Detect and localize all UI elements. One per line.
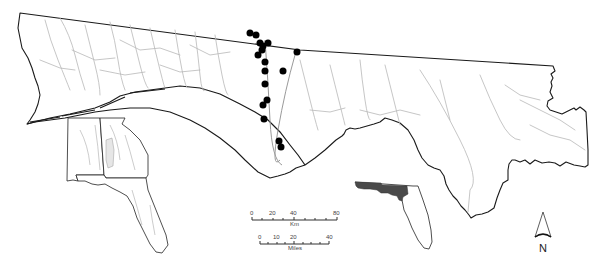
miles-tick-0: 0 — [258, 234, 262, 240]
florida-locator-inset — [355, 182, 432, 249]
main-region — [18, 13, 588, 218]
site-marker — [276, 138, 283, 145]
miles-scale-bar: 0 10 20 40 Miles — [258, 234, 333, 251]
miles-unit-label: Miles — [288, 245, 302, 251]
km-tick-0: 0 — [250, 210, 254, 216]
study-region-boundary — [18, 13, 588, 218]
site-marker — [261, 116, 268, 123]
north-label: N — [539, 242, 547, 254]
site-marker — [247, 30, 254, 37]
site-marker — [253, 32, 260, 39]
miles-tick-10: 10 — [273, 234, 280, 240]
site-marker — [294, 49, 301, 56]
north-arrow: N — [535, 212, 551, 254]
site-marker — [262, 59, 269, 66]
site-marker — [262, 68, 269, 75]
km-unit-label: Km — [290, 221, 299, 227]
site-marker — [278, 144, 285, 151]
km-scale-bar: 0 20 40 80 Km — [250, 210, 340, 227]
study-area-map: 0 20 40 80 Km 0 10 20 40 Miles N — [0, 0, 608, 267]
site-marker — [280, 68, 287, 75]
site-marker — [262, 81, 269, 88]
site-marker — [265, 40, 272, 47]
km-tick-80: 80 — [333, 210, 340, 216]
miles-tick-40: 40 — [326, 234, 333, 240]
miles-tick-20: 20 — [290, 234, 297, 240]
site-marker — [260, 102, 267, 109]
km-tick-20: 20 — [269, 210, 276, 216]
florida-inset-outline — [76, 175, 168, 253]
site-marker — [255, 52, 262, 59]
southeast-us-inset — [67, 118, 168, 253]
highlighted-basin — [106, 138, 114, 168]
km-tick-40: 40 — [290, 210, 297, 216]
alabama-outline — [67, 118, 104, 181]
